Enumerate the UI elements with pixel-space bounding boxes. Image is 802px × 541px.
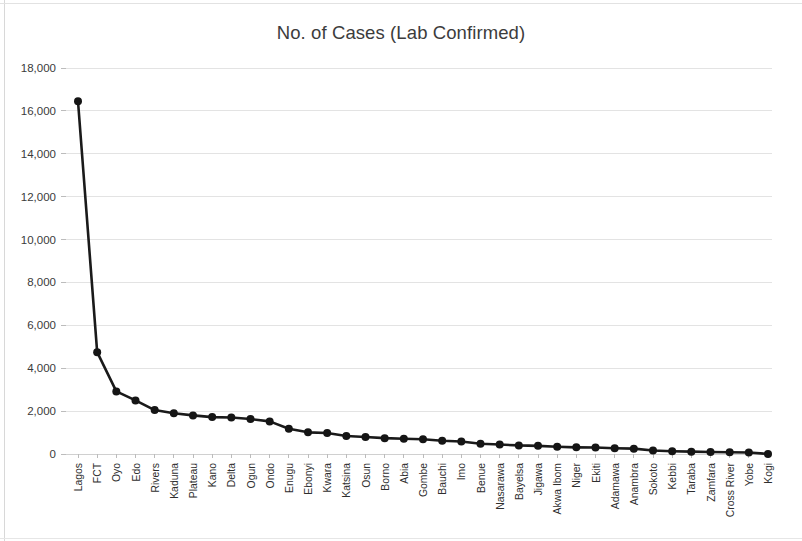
- data-point: [764, 450, 772, 458]
- x-tick-label: Kwara: [322, 463, 333, 493]
- data-point: [342, 432, 350, 440]
- x-tick-label: Ekiti: [591, 463, 602, 483]
- y-tick-label: 12,000: [21, 191, 56, 203]
- x-tick-label: Sokoto: [648, 463, 659, 496]
- data-point: [687, 448, 695, 456]
- x-tick-label: Delta: [226, 463, 237, 487]
- data-point: [112, 387, 120, 395]
- x-tick-label: Akwa Ibom: [552, 463, 563, 514]
- y-tick-label: 18,000: [21, 62, 56, 74]
- data-point: [515, 441, 523, 449]
- y-tick-label: 10,000: [21, 234, 56, 246]
- y-tick-label: 4,000: [27, 362, 56, 374]
- data-point: [534, 442, 542, 450]
- x-tick-label: Abia: [399, 463, 410, 484]
- series-markers-group: [74, 97, 772, 458]
- data-point: [726, 448, 734, 456]
- x-tick-label: Ebonyi: [303, 463, 314, 495]
- x-tick-label: Adamawa: [610, 463, 621, 509]
- x-tick-label: Anambra: [629, 463, 640, 505]
- data-point: [93, 348, 101, 356]
- data-point: [477, 440, 485, 448]
- x-tick-label: Katsina: [341, 463, 352, 498]
- x-tick-label: Imo: [456, 463, 467, 481]
- x-tick-label: Nasarawa: [495, 463, 506, 510]
- data-point: [745, 449, 753, 457]
- x-tick-label: Niger: [571, 462, 582, 487]
- data-point: [151, 406, 159, 414]
- data-point: [611, 444, 619, 452]
- line-chart-svg: 18,00016,00014,00012,00010,0008,0006,000…: [0, 0, 802, 541]
- data-point: [189, 411, 197, 419]
- x-tick-label: Taraba: [686, 463, 697, 495]
- data-point: [553, 443, 561, 451]
- data-point: [247, 415, 255, 423]
- x-tick-label: Borno: [380, 463, 391, 491]
- y-tick-label: 14,000: [21, 148, 56, 160]
- data-point: [227, 414, 235, 422]
- x-tick-label: Jigawa: [533, 463, 544, 496]
- data-point: [323, 429, 331, 437]
- y-tick-label: 8,000: [27, 276, 56, 288]
- x-tick-label: Plateau: [188, 463, 199, 498]
- data-point: [707, 448, 715, 456]
- x-tick-label: Ogun: [246, 463, 257, 489]
- data-point: [266, 417, 274, 425]
- y-axis-tick-labels: 18,00016,00014,00012,00010,0008,0006,000…: [21, 62, 56, 460]
- data-point: [419, 435, 427, 443]
- data-point: [496, 441, 504, 449]
- data-point: [304, 428, 312, 436]
- data-point: [208, 413, 216, 421]
- x-axis-tick-labels: LagosFCTOyoEdoRiversKadunaPlateauKanoDel…: [73, 462, 774, 517]
- y-tick-label: 2,000: [27, 405, 56, 417]
- x-tick-label: Bayelsa: [514, 463, 525, 500]
- data-point: [381, 434, 389, 442]
- data-point: [400, 435, 408, 443]
- x-tick-label: Kebbi: [667, 463, 678, 490]
- x-tick-label: Lagos: [73, 463, 84, 491]
- x-tick-label: Osun: [361, 463, 372, 488]
- x-tick-label: Kano: [207, 463, 218, 487]
- data-point: [74, 97, 82, 105]
- data-point: [362, 433, 370, 441]
- x-tick-label: Yobe: [744, 463, 755, 487]
- x-tick-label: Zamfara: [706, 463, 717, 502]
- data-point: [438, 437, 446, 445]
- x-tick-label: Oyo: [111, 463, 122, 482]
- chart-page: No. of Cases (Lab Confirmed) 18,00016,00…: [0, 0, 802, 541]
- x-tick-label: Edo: [131, 463, 142, 482]
- data-point: [285, 425, 293, 433]
- data-point: [649, 447, 657, 455]
- y-tick-label: 6,000: [27, 319, 56, 331]
- x-tick-label: Gombe: [418, 463, 429, 497]
- x-tick-label: Benue: [476, 463, 487, 493]
- y-tick-label: 0: [50, 448, 56, 460]
- x-tick-label: Cross River: [725, 462, 736, 517]
- data-point: [592, 444, 600, 452]
- y-tick-marks-group: [61, 68, 66, 454]
- x-tick-marks-group: [78, 454, 768, 458]
- x-tick-label: Rivers: [150, 463, 161, 492]
- x-tick-label: FCT: [92, 462, 103, 483]
- x-tick-label: Bauchi: [437, 463, 448, 495]
- data-point: [132, 396, 140, 404]
- x-tick-label: Kaduna: [169, 463, 180, 499]
- x-tick-label: Ondo: [265, 463, 276, 489]
- y-tick-label: 16,000: [21, 105, 56, 117]
- gridlines-group: [66, 68, 772, 454]
- data-point: [572, 443, 580, 451]
- x-tick-label: Kogi: [763, 463, 774, 484]
- data-point: [668, 447, 676, 455]
- data-point: [170, 409, 178, 417]
- x-tick-label: Enugu: [284, 463, 295, 493]
- chart-plot-area: 18,00016,00014,00012,00010,0008,0006,000…: [0, 0, 802, 541]
- data-point: [630, 445, 638, 453]
- data-point: [457, 438, 465, 446]
